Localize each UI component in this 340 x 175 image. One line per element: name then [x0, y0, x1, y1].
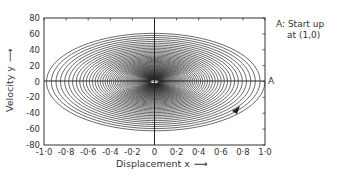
annotation-line2: at (1,0)	[287, 30, 320, 40]
x-tick-label: -0·6	[80, 147, 97, 157]
x-tick-label: -0·2	[124, 147, 141, 157]
x-tick-label: 0	[152, 147, 157, 157]
annotation-line1: A: Start up	[276, 19, 324, 29]
x-axis-label: Displacement x⟶	[116, 158, 208, 169]
x-tick-label: 0·6	[214, 147, 228, 157]
x-tick-label: 0·2	[170, 147, 184, 157]
y-tick-label: -80	[26, 140, 40, 150]
y-tick-label: 80	[29, 13, 40, 23]
y-tick-label: -20	[26, 92, 40, 102]
x-tick-label: 1·0	[258, 147, 272, 157]
trajectory-line	[47, 33, 265, 130]
x-tick-label: -0·8	[58, 147, 75, 157]
x-tick-label: -0·4	[102, 147, 119, 157]
phase-plane-chart: -1·0-0·8-0·6-0·4-0·200·20·40·60·81·0 806…	[0, 0, 340, 175]
y-axis-label: Velocity y⟶	[4, 48, 15, 112]
y-tick-label: -40	[26, 108, 40, 118]
x-tick-label: 0·8	[236, 147, 250, 157]
spiral-trajectory	[47, 33, 265, 130]
point-a-label: A	[268, 76, 275, 86]
y-tick-label: 20	[29, 61, 40, 71]
y-tick-label: 0	[35, 77, 40, 87]
y-tick-label: 40	[29, 45, 40, 55]
y-tick-label: -60	[26, 124, 40, 134]
y-tick-label: 60	[29, 29, 40, 39]
x-tick-label: 0·4	[192, 147, 206, 157]
